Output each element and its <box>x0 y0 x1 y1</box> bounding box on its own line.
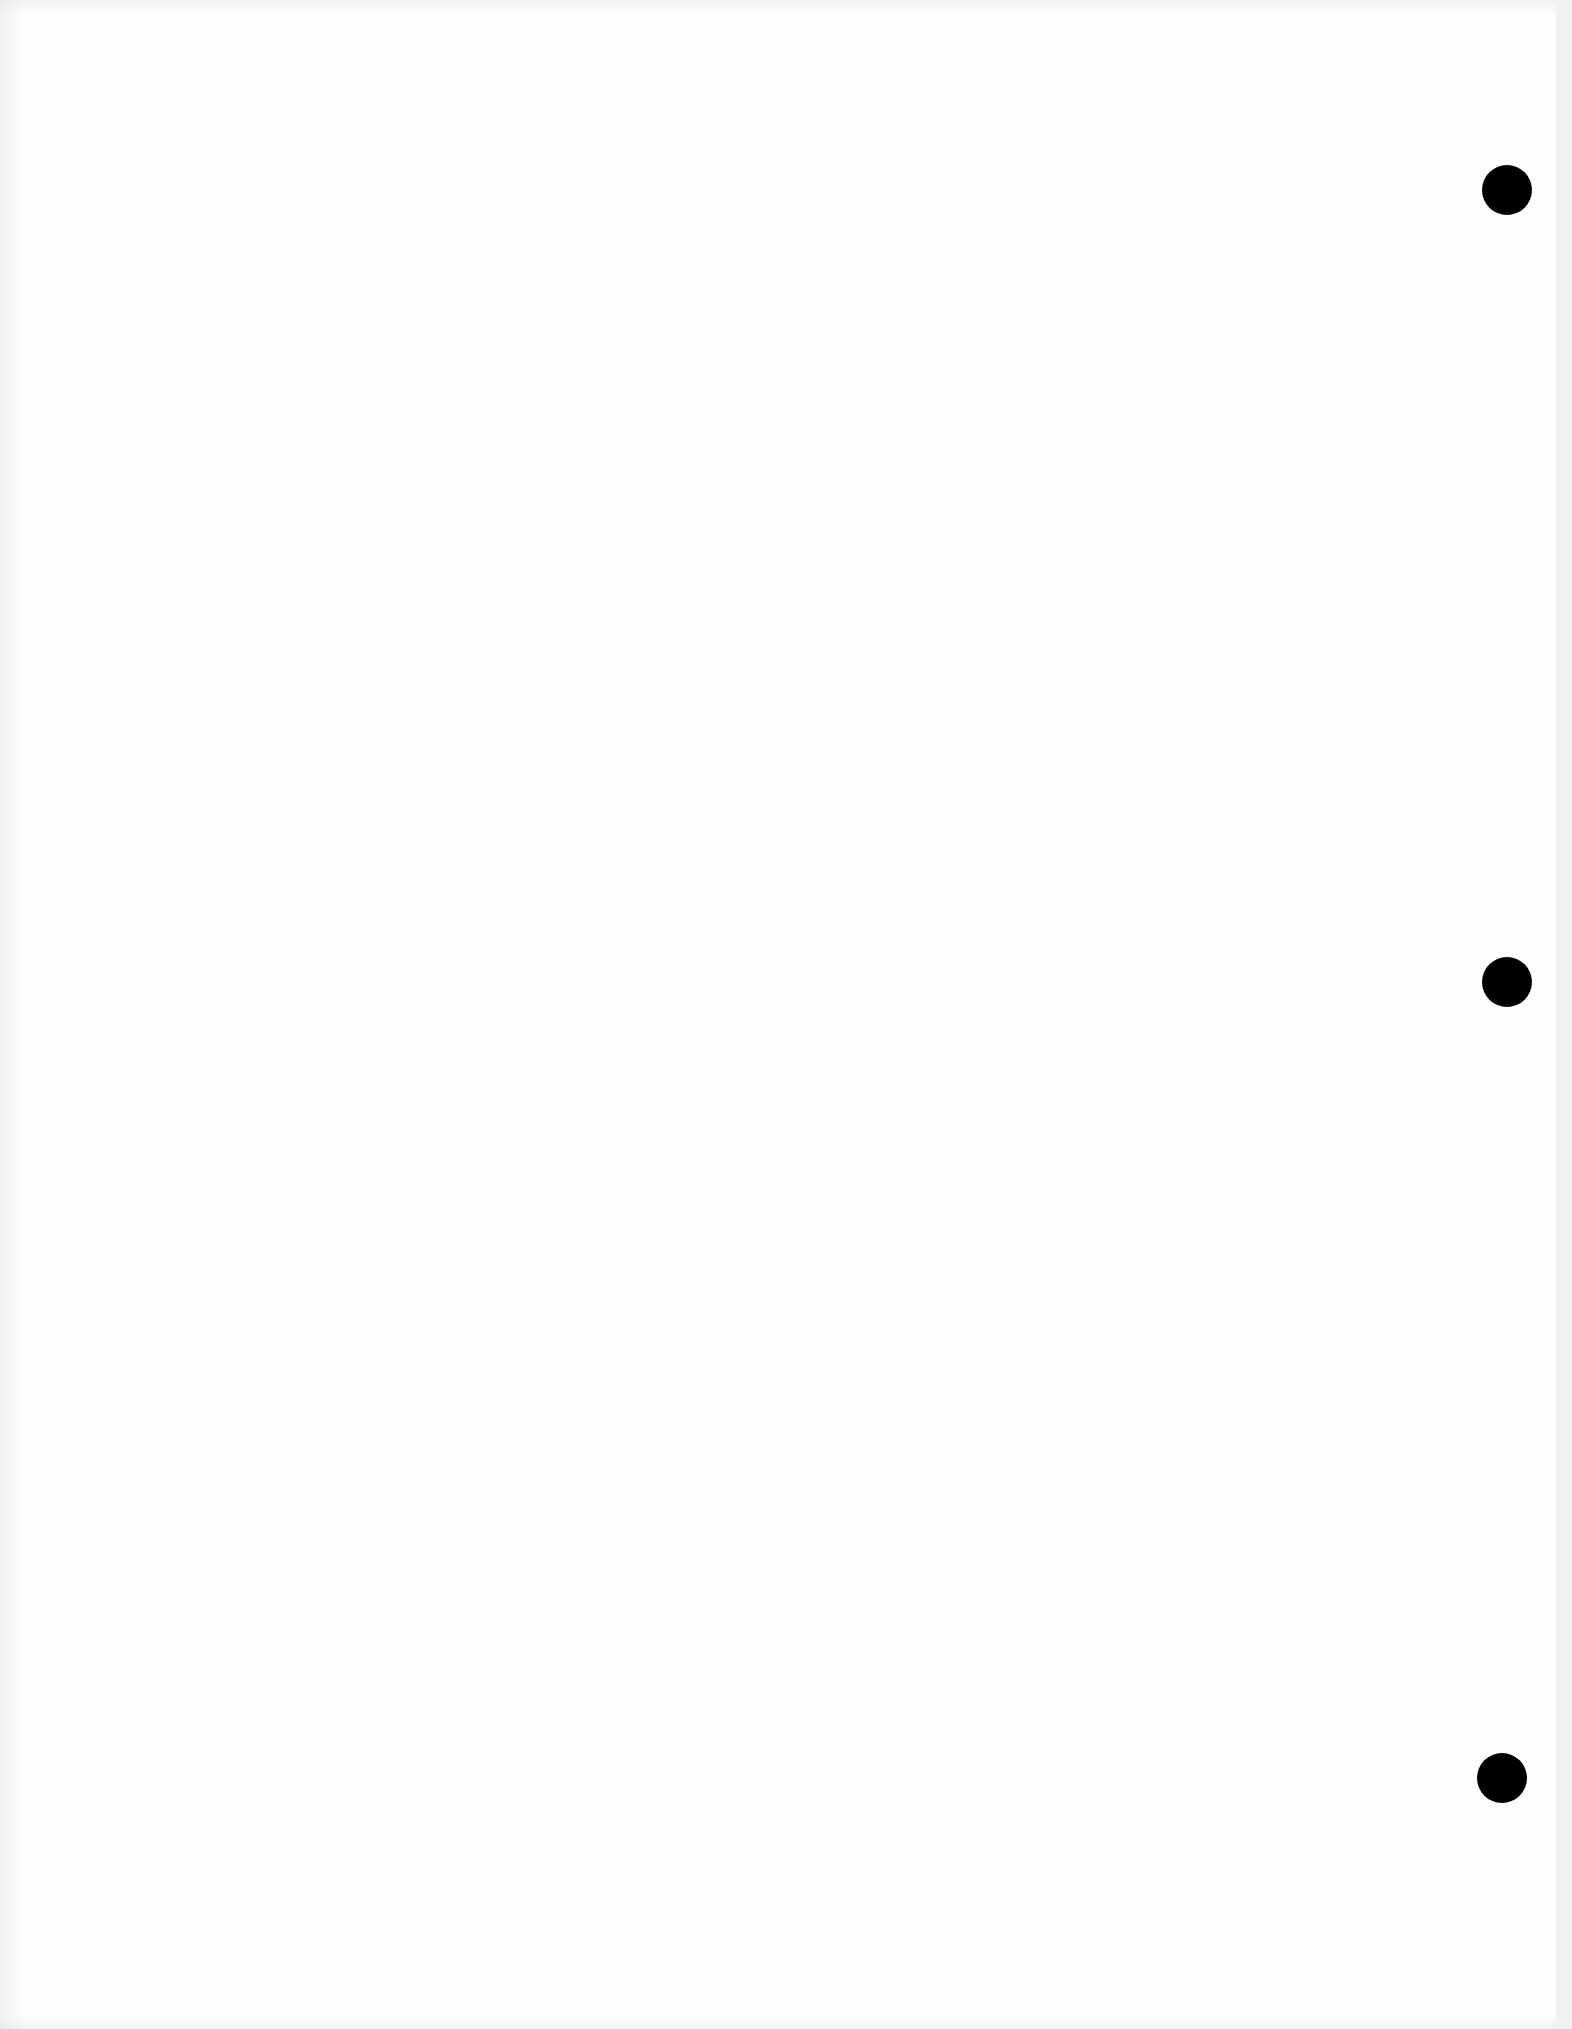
punch-hole-top <box>1482 165 1532 215</box>
punch-hole-middle <box>1482 957 1532 1007</box>
scanned-blank-page <box>0 0 1572 2029</box>
right-edge-shadow <box>1556 0 1572 2029</box>
punch-hole-bottom <box>1477 1753 1527 1803</box>
